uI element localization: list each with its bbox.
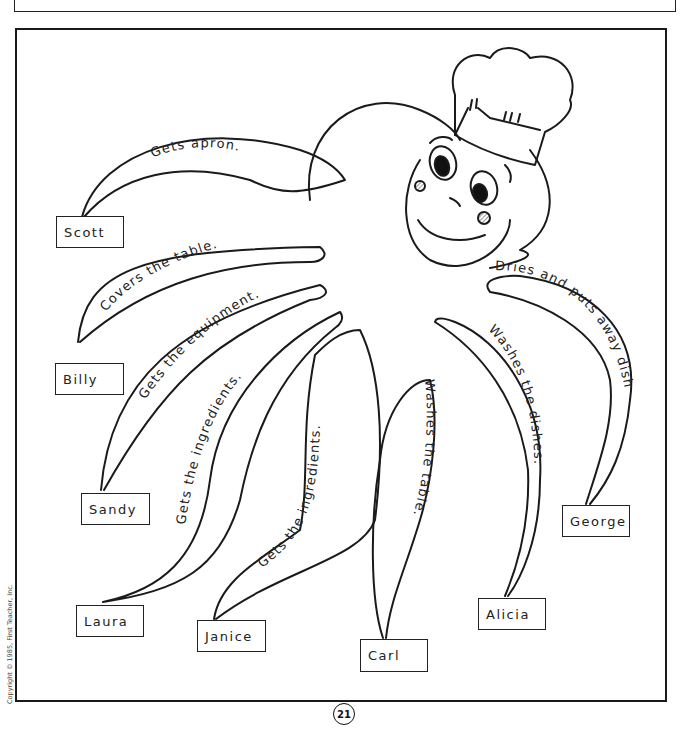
svg-text:Washes the table.: Washes the table.: [410, 379, 439, 519]
eyes-icon: [418, 137, 511, 240]
name-text: Laura: [84, 614, 128, 629]
svg-text:Gets the equipment.: Gets the equipment.: [135, 285, 262, 401]
name-label-george: George: [562, 505, 630, 537]
name-text: George: [570, 514, 626, 529]
name-text: Janice: [205, 629, 253, 644]
svg-text:Dries and puts away dishes.: Dries and puts away dishes.: [0, 0, 637, 390]
octopus-head: [309, 103, 550, 268]
task-carl: Washes the table.: [410, 379, 439, 519]
svg-text:Gets the ingredients.: Gets the ingredients.: [173, 368, 245, 526]
task-scott: Gets apron.: [148, 135, 242, 160]
task-alicia: Washes the dishes.: [486, 322, 547, 466]
svg-text:Washes the dishes.: Washes the dishes.: [486, 322, 547, 466]
task-janice: Gets the ingredients.: [255, 424, 323, 570]
name-text: Scott: [64, 225, 105, 240]
name-label-janice: Janice: [197, 620, 266, 652]
cheek-icon: [415, 181, 425, 191]
name-text: Billy: [63, 372, 98, 387]
svg-text:Gets apron.: Gets apron.: [148, 135, 242, 160]
name-text: Sandy: [89, 502, 137, 517]
task-sandy: Gets the equipment.: [135, 285, 262, 401]
chef-hat-icon: [453, 48, 573, 165]
name-label-sandy: Sandy: [81, 493, 150, 525]
name-label-carl: Carl: [360, 639, 428, 672]
name-label-alicia: Alicia: [478, 598, 546, 630]
svg-text:Gets the ingredients.: Gets the ingredients.: [255, 424, 323, 570]
task-george: Dries and puts away dishes.: [0, 0, 637, 390]
cheek-icon: [478, 212, 490, 224]
task-laura: Gets the ingredients.: [173, 368, 245, 526]
name-label-scott: Scott: [56, 216, 124, 248]
name-label-laura: Laura: [76, 605, 144, 637]
name-text: Carl: [368, 648, 400, 663]
page-number: 21: [333, 703, 355, 725]
name-text: Alicia: [486, 607, 530, 622]
copyright-notice: Copyright © 1985, First Teacher, Inc.: [6, 584, 14, 704]
name-label-billy: Billy: [55, 363, 124, 395]
